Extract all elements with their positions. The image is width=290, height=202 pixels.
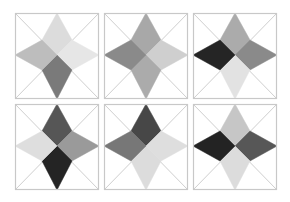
star-panel-5 [104, 104, 188, 190]
star-diagram [104, 13, 188, 99]
star-panel-2 [104, 13, 188, 99]
star-diagram [15, 13, 99, 99]
star-diagram [15, 104, 99, 190]
star-diagram [193, 104, 277, 190]
star-panel-6 [193, 104, 277, 190]
star-panel-4 [15, 104, 99, 190]
star-panel-1 [15, 13, 99, 99]
star-diagram [193, 13, 277, 99]
star-diagram [104, 104, 188, 190]
star-panel-3 [193, 13, 277, 99]
